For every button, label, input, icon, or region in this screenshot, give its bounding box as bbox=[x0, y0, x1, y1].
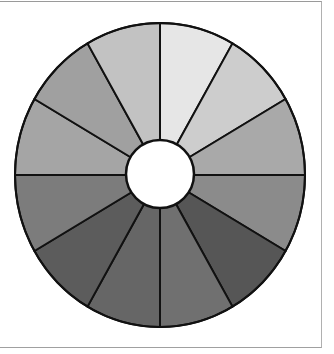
center-hole bbox=[126, 140, 194, 208]
segmented-wheel-diagram bbox=[0, 0, 334, 354]
